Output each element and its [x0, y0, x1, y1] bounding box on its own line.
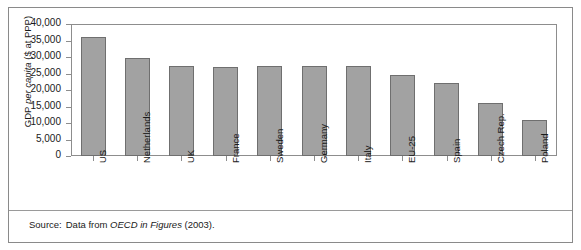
bar [346, 66, 371, 156]
x-axis-tick-label: Netherlands [141, 112, 152, 163]
y-axis-tick-label: 30,000 [30, 50, 61, 61]
source-suffix: (2003). [185, 219, 215, 230]
y-axis-tick-label: 10,000 [30, 116, 61, 127]
x-axis-tick-label: Germany [318, 124, 329, 163]
x-axis-tick-mark [535, 156, 536, 161]
x-axis-tick-mark [491, 156, 492, 161]
x-axis-tick-mark [402, 156, 403, 161]
figure-frame: GDP per capita ($ at PPP) 40,00035,00030… [8, 7, 573, 243]
x-axis-tick-label: EU-25 [406, 136, 417, 163]
y-axis-tick-mark [66, 156, 71, 157]
x-axis-tick-label: Italy [362, 146, 373, 163]
y-axis-tick-label: 15,000 [30, 100, 61, 111]
x-axis-tick-mark [181, 156, 182, 161]
x-axis-tick-mark [93, 156, 94, 161]
source-prefix: Source: [29, 219, 62, 230]
x-axis-tick-mark [358, 156, 359, 161]
footer-divider [9, 210, 572, 211]
x-axis-tick-mark [314, 156, 315, 161]
y-axis-tick-label: 35,000 [30, 34, 61, 45]
y-axis-tick-label: 0 [55, 149, 61, 160]
y-axis-tick-label: 25,000 [30, 67, 61, 78]
x-axis-tick-mark [226, 156, 227, 161]
figure-container: GDP per capita ($ at PPP) 40,00035,00030… [0, 0, 581, 250]
x-axis-tick-label: France [230, 133, 241, 163]
y-axis-tick-label: 40,000 [30, 17, 61, 28]
y-axis-tick-label: 5,000 [36, 133, 61, 144]
source-note: Source:Data from OECD in Figures (2003). [29, 219, 215, 230]
x-axis-tick-label: UK [185, 150, 196, 163]
x-axis-tick-mark [137, 156, 138, 161]
x-axis-tick-label: Poland [539, 133, 550, 163]
bar [169, 66, 194, 156]
y-axis-tick-label: 20,000 [30, 83, 61, 94]
source-text: Data from [66, 219, 108, 230]
x-axis-tick-mark [270, 156, 271, 161]
source-italic-title: OECD in Figures [110, 219, 182, 230]
bar [81, 37, 106, 156]
x-axis-tick-label: Czech Rep. [495, 113, 506, 163]
bar-chart: GDP per capita ($ at PPP) 40,00035,00030… [9, 8, 574, 208]
x-axis-tick-mark [447, 156, 448, 161]
x-axis-tick-label: Sweden [274, 129, 285, 163]
x-axis-tick-label: US [97, 150, 108, 163]
x-axis-tick-label: Spain [451, 139, 462, 163]
